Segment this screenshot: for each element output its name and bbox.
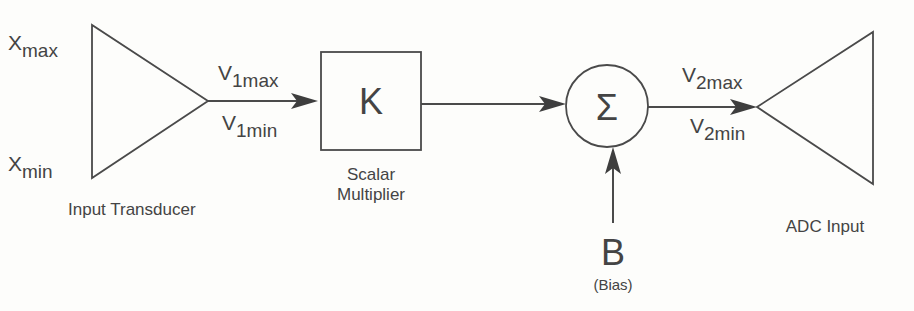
multiplier-label: Multiplier	[337, 185, 405, 204]
sigma-symbol: Σ	[596, 87, 618, 128]
input-transducer-label: Input Transducer	[68, 200, 196, 219]
v2max-label: V2max	[682, 63, 743, 93]
v1max-label: V1max	[218, 61, 279, 91]
xmax-label: Xmax	[8, 31, 58, 61]
adc-input-triangle	[757, 32, 873, 184]
diagram-canvas: Xmax Xmin Input Transducer V1max V1min K…	[0, 0, 914, 311]
k-symbol: K	[359, 81, 383, 122]
v1min-label: V1min	[222, 111, 277, 141]
bias-symbol: B	[601, 232, 625, 273]
v2min-label: V2min	[690, 114, 745, 144]
xmin-label: Xmin	[8, 152, 53, 182]
bias-label: (Bias)	[593, 276, 632, 293]
block-diagram: Xmax Xmin Input Transducer V1max V1min K…	[0, 0, 914, 311]
scalar-label: Scalar	[347, 165, 396, 184]
adc-input-label: ADC Input	[786, 217, 865, 236]
input-transducer-triangle	[92, 25, 208, 178]
